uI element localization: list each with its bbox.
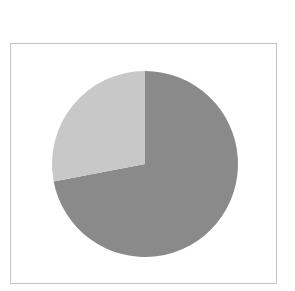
pie-chart: [0, 0, 295, 291]
pie-slices: [52, 71, 238, 257]
pie-slice-slice-b: [52, 71, 145, 181]
